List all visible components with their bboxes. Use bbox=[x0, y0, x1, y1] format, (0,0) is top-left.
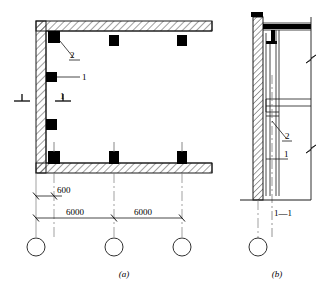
wall-top-cap bbox=[251, 12, 263, 17]
embedded-block bbox=[46, 119, 57, 130]
section-title: 1—1 bbox=[274, 208, 292, 218]
figure-root: 2 1 1 bbox=[0, 0, 328, 292]
embedded-block bbox=[177, 151, 187, 164]
section-mark-label: 1 bbox=[60, 91, 65, 101]
vertical-member-upper bbox=[271, 30, 275, 42]
callout-1-text-b: 1 bbox=[284, 149, 289, 159]
dim-6000-left-text: 6000 bbox=[66, 207, 85, 217]
bracket-plate bbox=[266, 41, 277, 44]
wall-bottom bbox=[36, 163, 212, 173]
dim-600-text: 600 bbox=[57, 185, 71, 195]
axis-circle bbox=[249, 238, 267, 256]
section-wall bbox=[253, 17, 263, 200]
axis-circle bbox=[173, 238, 191, 256]
embedded-block bbox=[109, 35, 119, 46]
wall-top bbox=[36, 21, 212, 31]
dim-6000-right-text: 6000 bbox=[134, 207, 153, 217]
axis-circle bbox=[105, 238, 123, 256]
embedded-block bbox=[46, 72, 57, 82]
embedded-block bbox=[177, 35, 187, 46]
axis-circle bbox=[27, 238, 45, 256]
panel-b-caption: (b) bbox=[272, 269, 283, 279]
beam-solid bbox=[263, 24, 311, 29]
embedded-block bbox=[48, 31, 60, 43]
callout-1-text: 1 bbox=[82, 72, 87, 82]
embedded-block bbox=[48, 151, 60, 164]
technical-drawing-svg: 2 1 1 bbox=[0, 0, 328, 292]
wall-left bbox=[36, 21, 46, 173]
panel-a-caption: (a) bbox=[119, 269, 130, 279]
callout-2-text-b: 2 bbox=[285, 131, 290, 141]
callout-2-text: 2 bbox=[70, 50, 75, 60]
embedded-block bbox=[109, 151, 119, 164]
